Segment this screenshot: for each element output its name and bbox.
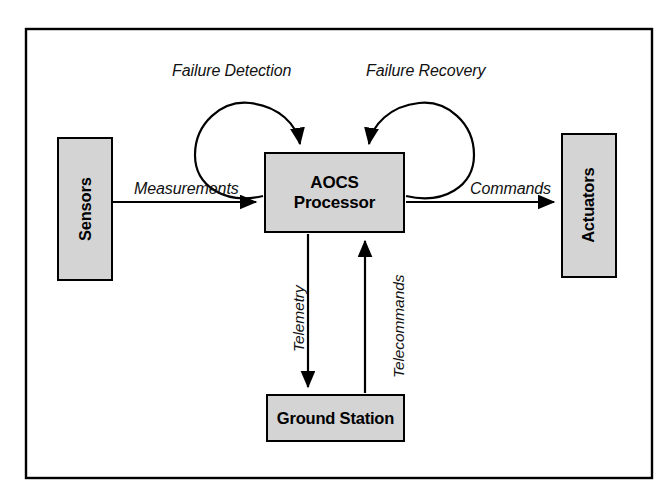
edge-label-telecommands: Telecommands — [390, 275, 408, 378]
node-ground-station[interactable]: Ground Station — [266, 394, 405, 442]
node-ground-station-label: Ground Station — [277, 409, 394, 427]
diagram-canvas: Sensors Actuators AOCS Processor Ground … — [0, 0, 672, 499]
node-aocs-processor-label: AOCS Processor — [294, 173, 375, 211]
edge-label-commands: Commands — [470, 180, 551, 198]
node-sensors[interactable]: Sensors — [57, 137, 113, 281]
edge-label-failure-detection: Failure Detection — [172, 62, 291, 80]
node-sensors-label: Sensors — [76, 177, 94, 241]
edge-label-measurements: Measurements — [134, 180, 239, 198]
edge-label-telemetry: Telemetry — [290, 285, 308, 352]
node-actuators[interactable]: Actuators — [561, 133, 617, 278]
edge-label-failure-recovery: Failure Recovery — [366, 62, 485, 80]
node-actuators-label: Actuators — [580, 168, 598, 243]
node-aocs-processor[interactable]: AOCS Processor — [264, 152, 405, 233]
